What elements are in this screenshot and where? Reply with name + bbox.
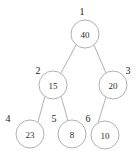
tree-edge <box>61 45 76 73</box>
node-value-label: 10 <box>101 131 111 141</box>
tree-node[interactable]: 10 <box>91 121 119 149</box>
nodes-group: 40152023810 <box>16 20 127 149</box>
node-index-label: 3 <box>126 65 131 76</box>
tree-graphic: 40152023810 123456 <box>0 0 139 155</box>
node-value-label: 15 <box>49 81 59 91</box>
node-value-label: 8 <box>70 130 75 140</box>
node-value-label: 20 <box>109 81 119 91</box>
node-index-label: 6 <box>86 113 91 124</box>
node-index-labels-group: 123456 <box>6 6 131 124</box>
heap-tree-diagram: 40152023810 123456 <box>0 0 139 155</box>
tree-edge <box>61 96 68 121</box>
node-value-label: 23 <box>26 130 36 140</box>
tree-edge <box>98 97 106 123</box>
tree-node[interactable]: 23 <box>16 120 44 148</box>
tree-node[interactable]: 15 <box>39 71 67 99</box>
tree-edge <box>94 45 106 73</box>
node-index-label: 5 <box>52 113 57 124</box>
node-index-label: 1 <box>80 6 85 17</box>
tree-edge <box>38 96 45 122</box>
tree-node[interactable]: 40 <box>71 20 99 48</box>
node-index-label: 4 <box>6 113 11 124</box>
tree-node[interactable]: 20 <box>99 71 127 99</box>
node-index-label: 2 <box>36 65 41 76</box>
node-value-label: 40 <box>81 30 91 40</box>
tree-node[interactable]: 8 <box>58 120 86 148</box>
